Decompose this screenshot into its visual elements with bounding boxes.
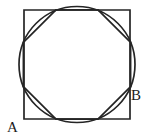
inscribed-circle: [19, 7, 135, 123]
vertex-label-b: B: [131, 87, 141, 103]
geometry-figure-svg: Square with inscribed circle and inscrib…: [0, 0, 147, 138]
geometry-figure-container: Square with inscribed circle and inscrib…: [0, 0, 147, 138]
vertex-label-a: A: [7, 119, 18, 135]
inscribed-octagon: [23, 10, 130, 119]
